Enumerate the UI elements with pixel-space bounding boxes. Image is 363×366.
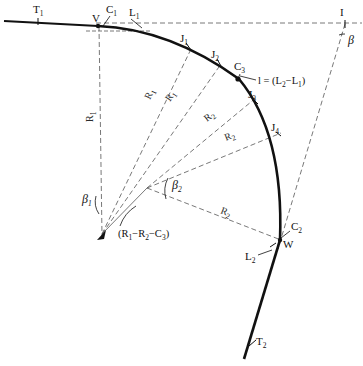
label-V: V <box>92 12 100 24</box>
leader-line-L2 <box>258 250 272 255</box>
label-T1: T1 <box>33 3 44 18</box>
label-C1: C1 <box>106 3 117 18</box>
label-R2-to-J4: R2 <box>223 129 238 146</box>
leader-line-C1 <box>103 16 110 26</box>
marker-C3 <box>235 76 240 81</box>
tick-L2 <box>270 243 276 247</box>
label-C2: C2 <box>291 220 302 235</box>
arrowhead-center-R1 <box>97 230 106 240</box>
label-angle-beta: β <box>347 33 354 47</box>
angle-arcs-group <box>95 34 345 226</box>
angle-arc-beta1 <box>95 196 99 214</box>
marker-V <box>96 24 100 28</box>
diagram-canvas: T1 V C1 L1 I J1 J2 C3 J3 <box>0 0 363 366</box>
label-R2-to-W: R2 <box>218 205 233 221</box>
expression-labels-group: l = (L2−L1) (R1−R2−C3) <box>118 75 306 242</box>
arc-segment-R1 <box>98 26 239 79</box>
label-I: I <box>340 6 344 18</box>
point-labels-group: T1 V C1 L1 I J1 J2 C3 J3 <box>33 3 344 350</box>
label-angle-beta2: β2 <box>171 178 182 194</box>
radius-line-R1-vertical <box>99 26 102 236</box>
angle-arc-center-offset <box>120 206 136 226</box>
radius-line-R1-to-J2 <box>102 64 221 234</box>
label-R1-to-J1: R1 <box>142 86 159 102</box>
arc-segment-R2 <box>239 79 280 240</box>
label-L1: L1 <box>129 6 140 21</box>
label-radius-difference-expression: (R1−R2−C3) <box>118 228 170 242</box>
label-T2: T2 <box>256 335 267 350</box>
label-R1-vertical: R1 <box>84 111 98 122</box>
tangent-line-I-to-W <box>278 24 345 249</box>
radius-line-R2-to-J3 <box>147 97 257 188</box>
point-markers-group <box>38 18 345 346</box>
label-W: W <box>283 238 294 250</box>
label-angle-beta1: β1 <box>81 192 92 208</box>
radius-line-R1-to-J1 <box>102 47 192 234</box>
label-C3: C3 <box>234 60 245 75</box>
label-chord-expression: l = (L2−L1) <box>258 75 306 89</box>
label-J3: J3 <box>248 88 256 103</box>
technical-drawing: T1 V C1 L1 I J1 J2 C3 J3 <box>0 0 363 366</box>
marker-W <box>278 238 282 242</box>
label-R2-to-J3: R2 <box>201 108 218 125</box>
tangent-segment-T1-V <box>4 21 98 26</box>
label-L2: L2 <box>245 250 256 265</box>
radius-labels-group: R1 R1 R1 R2 R2 R2 <box>84 86 238 221</box>
leader-line-chord-l <box>240 76 256 80</box>
label-J4: J4 <box>271 121 279 136</box>
